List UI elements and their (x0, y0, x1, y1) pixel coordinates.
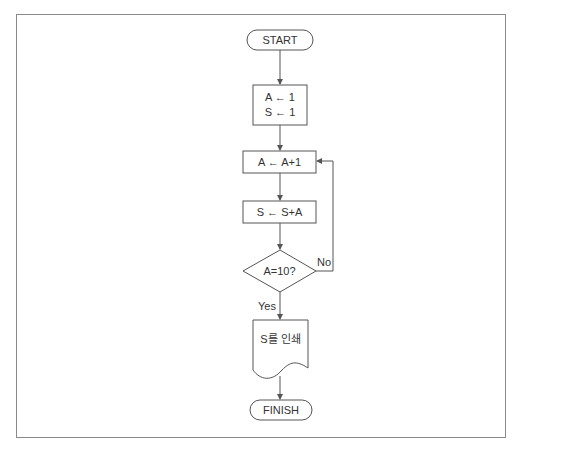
print-label: S를 인쇄 (253, 333, 308, 346)
finish-label: FINISH (250, 404, 312, 417)
decision-label: A=10? (243, 265, 316, 278)
no-label: No (317, 256, 331, 269)
increment-a-label: A ← A+1 (243, 156, 316, 169)
start-label: START (247, 34, 313, 47)
print-document-shape (253, 320, 308, 378)
init-line-s: S ← 1 (253, 106, 307, 119)
yes-label: Yes (258, 300, 276, 313)
add-s-label: S ← S+A (243, 206, 316, 219)
no-loop-arrow (316, 161, 333, 271)
flowchart-shapes (0, 0, 573, 450)
init-line-a: A ← 1 (253, 91, 307, 104)
